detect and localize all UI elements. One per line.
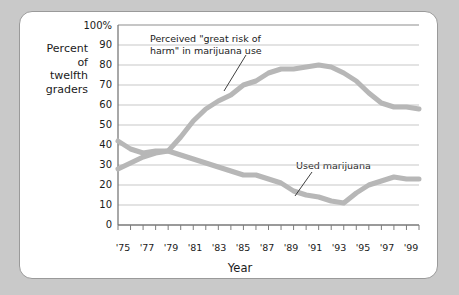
x-tick-label-87: '87 [254,242,280,253]
y-tick-label-100: 100% [68,20,112,31]
x-tick-label-97: '97 [374,242,400,253]
x-tick-label-83: '83 [206,242,232,253]
x-tick-label-85: '85 [230,242,256,253]
x-tick-label-77: '77 [134,242,160,253]
y-tick-label-0: 0 [78,219,112,230]
y-tick-label-20: 20 [78,179,112,190]
figure-root: Percent of twelfth graders 100% 90 80 70… [0,0,459,295]
y-tick-label-10: 10 [78,199,112,210]
x-tick-label-79: '79 [158,242,184,253]
y-tick-label-50: 50 [78,119,112,130]
x-tick-label-75: '75 [110,242,136,253]
x-tick-label-81: '81 [182,242,208,253]
y-tick-label-80: 80 [78,59,112,70]
x-tick-label-95: '95 [350,242,376,253]
y-tick-label-60: 60 [78,99,112,110]
x-tick-label-89: '89 [278,242,304,253]
x-axis-title: Year [180,261,300,275]
y-tick-label-40: 40 [78,139,112,150]
x-tick-label-91: '91 [302,242,328,253]
annotation-used-marijuana: Used marijuana [296,160,400,172]
annotation-perceived-risk: Perceived "great risk of harm" in mariju… [150,33,282,57]
x-tick-label-93: '93 [326,242,352,253]
y-tick-label-70: 70 [78,79,112,90]
y-tick-label-30: 30 [78,159,112,170]
x-tick-label-99: '99 [398,242,424,253]
y-tick-label-90: 90 [78,39,112,50]
